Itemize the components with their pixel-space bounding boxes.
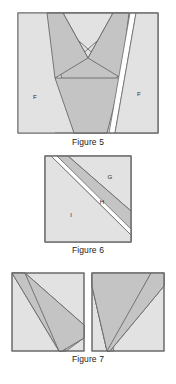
figure-5-caption: Figure 5 (0, 137, 176, 148)
figure-5-label-F-left: F (33, 93, 37, 100)
figure-7-block: Figure 7 (0, 272, 176, 372)
figure-7-left-panel (12, 273, 84, 351)
figure-sheet: F F Figure 5 G H I Figure 6 (0, 0, 176, 384)
figure-6-diagram: G H I (44, 155, 132, 243)
figure-7-caption: Figure 7 (0, 354, 176, 365)
figure-6-label-H: H (100, 198, 104, 205)
figure-7-right-panel (92, 273, 164, 351)
figure-6-label-I: I (70, 211, 72, 218)
figure-6-label-G: G (108, 173, 113, 180)
figure-5-diagram: F F (17, 12, 159, 134)
figure-5-label-F-right: F (137, 90, 141, 97)
figure-7-diagram (11, 272, 165, 352)
figure-5-block: F F Figure 5 (0, 12, 176, 152)
figure-6-block: G H I Figure 6 (0, 155, 176, 267)
figure-6-caption: Figure 6 (0, 245, 176, 256)
